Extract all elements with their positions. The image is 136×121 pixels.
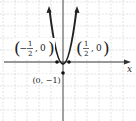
left-intercept-label: ( − 1 2 , 0 ): [13, 38, 55, 58]
svg-text:): ): [103, 38, 110, 58]
svg-text:0: 0: [40, 43, 46, 53]
right-intercept-point: [67, 60, 71, 64]
svg-text:2: 2: [84, 50, 88, 58]
x-axis-label: x: [127, 64, 132, 74]
svg-text:2: 2: [28, 50, 32, 58]
parabola-graph: x ( − 1 2 , 0 ) ( 1 2 , 0: [0, 0, 136, 121]
left-intercept-point: [55, 60, 59, 64]
svg-text:): ): [48, 38, 55, 58]
svg-text:−: −: [20, 43, 28, 53]
svg-text:,: ,: [91, 43, 94, 53]
svg-text:(: (: [76, 38, 83, 58]
right-intercept-label: ( 1 2 , 0 ): [76, 38, 110, 58]
vertex-label: (0, −1): [33, 76, 61, 85]
svg-text:1: 1: [84, 40, 88, 48]
grid: [0, 0, 136, 121]
svg-text:,: ,: [35, 43, 38, 53]
svg-text:0: 0: [96, 43, 102, 53]
svg-text:1: 1: [28, 40, 32, 48]
graph-canvas: x ( − 1 2 , 0 ) ( 1 2 , 0: [0, 0, 136, 121]
